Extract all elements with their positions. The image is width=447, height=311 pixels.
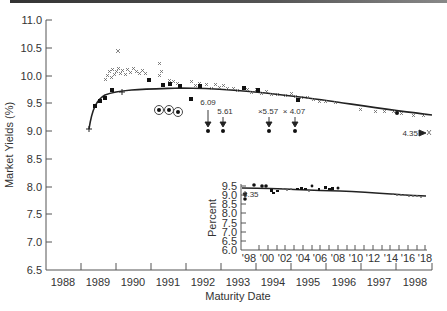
x-tick-1989: 1989	[86, 276, 110, 288]
x-tick-1995: 1995	[296, 276, 320, 288]
annotation-5.57: ×5.57	[258, 107, 279, 116]
annotation-4.35-main: 4.35	[402, 129, 418, 138]
x-tick-1993: 1993	[226, 276, 250, 288]
annotation-labels: 6.09 5.61 ×5.57 × 4.07 4.35	[200, 98, 418, 138]
x-tick-1996: 1996	[332, 276, 356, 288]
inset-chart: 9.5 9.0 8.5 8.0 7.5 7.0 6.5 6.0 '98 '00 …	[206, 180, 432, 264]
y-tick-6.5: 6.5	[27, 264, 42, 276]
inset-x-tick-18: '18	[418, 252, 432, 264]
y-axis-title: Market Yields (%)	[3, 102, 15, 188]
x-tick-1997: 1997	[367, 276, 391, 288]
inset-x-tick-02: '02	[278, 252, 292, 264]
inset-x-tick-06: '06	[313, 252, 327, 264]
x-axis-title: Maturity Date	[205, 290, 270, 302]
x-tick-1998: 1998	[403, 276, 427, 288]
inset-y-tick-labels: 9.5 9.0 8.5 8.0 7.5 7.0 6.5 6.0	[222, 180, 237, 256]
inset-x-tick-labels: '98 '00 '02 '04 '06 '08 '10 '12 '14 '16 …	[242, 252, 432, 264]
inset-x-tick-98: '98	[242, 252, 256, 264]
inset-y-tick-6.0: 6.0	[222, 244, 237, 256]
x-tick-1990: 1990	[121, 276, 145, 288]
x-tick-1994: 1994	[261, 276, 285, 288]
main-x-tick-labels: 1988 1989 1990 1991 1992 1993 1994 1995 …	[51, 276, 427, 288]
inset-x-tick-08: '08	[331, 252, 345, 264]
inset-annotation-4.35: 4.35	[243, 190, 259, 199]
inset-x-tick-14: '14	[384, 252, 398, 264]
x-tick-1992: 1992	[191, 276, 215, 288]
annotation-4.07: × 4.07	[283, 107, 306, 116]
annotation-5.61: 5.61	[217, 107, 233, 116]
inset-x-tick-12: '12	[366, 252, 380, 264]
inset-x-tick-10: '10	[349, 252, 363, 264]
y-tick-8.0: 8.0	[27, 181, 42, 193]
y-tick-7.5: 7.5	[27, 208, 42, 220]
yield-chart: 11.0 10.5 10.0 9.5 9.0 8.5 8.0 7.5 7.0 6…	[0, 0, 447, 311]
y-tick-9.5: 9.5	[27, 97, 42, 109]
x-tick-1988: 1988	[51, 276, 75, 288]
y-tick-9.0: 9.0	[27, 125, 42, 137]
main-y-tick-labels: 11.0 10.5 10.0 9.5 9.0 8.5 8.0 7.5 7.0 6…	[21, 14, 42, 276]
circled-dot-markers	[155, 106, 183, 117]
inset-x-tick-16: '16	[401, 252, 415, 264]
y-tick-8.5: 8.5	[27, 153, 42, 165]
main-axes	[46, 20, 432, 270]
x-tick-1991: 1991	[156, 276, 180, 288]
inset-x-tick-04: '04	[296, 252, 310, 264]
y-tick-11.0: 11.0	[21, 14, 42, 26]
inset-y-axis-title: Percent	[206, 199, 218, 237]
y-tick-10.0: 10.0	[21, 70, 42, 82]
y-tick-10.5: 10.5	[21, 42, 42, 54]
inset-x-tick-00: '00	[260, 252, 274, 264]
annotation-6.09: 6.09	[200, 98, 216, 107]
y-tick-7.0: 7.0	[27, 236, 42, 248]
